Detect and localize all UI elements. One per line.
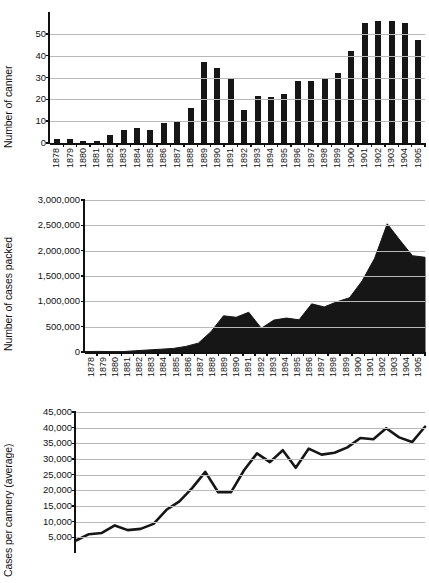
gridline [76,412,425,413]
chart-cases-per-cannery-ytick-labels: 5,00010,00015,00020,00025,00030,00035,00… [18,390,72,583]
gridline [76,506,425,507]
y-tickmark [46,120,50,121]
x-tick-label: 1904 [402,357,411,377]
y-tick-label: 20,000 [43,486,72,496]
x-tick-label: 1880 [111,357,120,377]
x-tickmark [181,352,182,356]
x-tick-label: 1895 [280,148,289,168]
x-tick-label: 1878 [87,357,96,377]
x-tickmark [357,143,358,147]
gridline [50,56,425,57]
bar [174,121,180,143]
x-tick-label: 1902 [374,148,383,168]
x-tick-label: 1891 [226,148,235,168]
bar [308,81,314,143]
y-tickmark [81,275,85,276]
bar [375,21,381,143]
gridline [76,459,425,460]
bar [121,130,127,143]
x-tick-label: 1887 [196,357,205,377]
y-tickmark [72,411,76,412]
x-tick-label: 1879 [66,148,75,168]
x-tickmark [109,352,110,356]
y-tickmark [81,351,85,352]
x-tick-label: 1886 [159,148,168,168]
bar [214,68,220,143]
y-tickmark [72,490,76,491]
bar [389,21,395,143]
x-tickmark [183,143,184,147]
y-tick-label: 500,000 [46,322,80,332]
chart-cases-packed: Number of cases packed 0500,0001,000,000… [0,190,429,390]
x-tickmark [223,143,224,147]
gridline [76,522,425,523]
x-tick-label: 1884 [133,148,142,168]
x-tickmark [388,352,389,356]
x-tick-label: 1878 [52,148,61,168]
x-tickmark [76,143,77,147]
x-tickmark [170,143,171,147]
y-tick-label: 25,000 [43,470,72,480]
y-tickmark [81,326,85,327]
x-tick-label: 1900 [354,357,363,377]
y-tick-label: 2,500,000 [38,221,80,231]
chart-canneries-plot [50,12,425,143]
x-tick-label: 1886 [184,357,193,377]
x-tickmark [411,143,412,147]
gridline [50,99,425,100]
x-tickmark [133,352,134,356]
y-tick-label: 20 [35,95,46,105]
x-tickmark [157,352,158,356]
area-series [85,224,425,352]
x-tick-label: 1888 [208,357,217,377]
x-tickmark [398,143,399,147]
y-tick-label: 3,000,000 [38,195,80,205]
x-tickmark [197,143,198,147]
bar [268,97,274,143]
x-tick-label: 1889 [200,148,209,168]
bar [201,62,207,143]
y-tickmark [46,55,50,56]
x-tick-label: 1881 [123,357,132,377]
x-tickmark [266,352,267,356]
x-tickmark [116,143,117,147]
bar [402,23,408,143]
bar [54,139,60,143]
bar [80,141,86,143]
x-tickmark [424,143,425,147]
x-tickmark [400,352,401,356]
y-tick-label: 15,000 [43,501,72,511]
x-tick-label: 1900 [347,148,356,168]
x-tickmark [327,352,328,356]
x-tick-label: 1887 [173,148,182,168]
x-tick-label: 1885 [146,148,155,168]
x-tick-label: 1904 [400,148,409,168]
x-tickmark [130,143,131,147]
gridline [76,428,425,429]
x-tickmark [145,352,146,356]
gridline [50,34,425,35]
bar [335,73,341,143]
x-tick-label: 1890 [232,357,241,377]
gridline [76,537,425,538]
x-tick-label: 1893 [269,357,278,377]
chart-cases-per-cannery: Cases per cannery (average) 5,00010,0001… [0,390,429,583]
x-tickmark [315,352,316,356]
y-tick-label: 0 [75,347,80,357]
x-tickmark [364,352,365,356]
x-tick-label: 1883 [119,148,128,168]
bar [295,81,301,143]
chart-canneries: Number of canner 01020304050 18781879188… [0,0,429,190]
x-tickmark [412,352,413,356]
chart-cases-per-cannery-plot [76,412,425,553]
x-tick-label: 1892 [240,148,249,168]
x-tick-label: 1897 [307,148,316,168]
y-tickmark [72,474,76,475]
x-tick-label: 1895 [293,357,302,377]
x-tickmark [376,352,377,356]
x-tick-label: 1893 [253,148,262,168]
bar [161,123,167,143]
x-tickmark [304,143,305,147]
x-tick-label: 1882 [135,357,144,377]
x-tickmark [121,352,122,356]
